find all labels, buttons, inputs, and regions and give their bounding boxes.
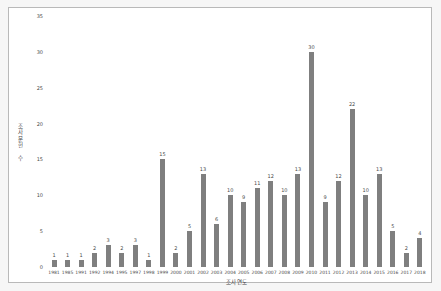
y-tick-label: 5 (29, 229, 43, 234)
bar-2015 (377, 174, 382, 267)
bar-1981 (52, 260, 57, 267)
bar-value-label: 4 (418, 231, 421, 236)
bar-value-label: 13 (200, 167, 206, 172)
bar-1992 (92, 253, 97, 267)
bar-2011 (323, 202, 328, 267)
bar-chart-plot-area: 조사문헌 수 조사연도 0510152025303511981119851199… (9, 8, 431, 282)
y-tick-label: 10 (29, 193, 43, 198)
bar-2007 (268, 181, 273, 267)
bar-1999 (160, 159, 165, 267)
y-tick-label: 20 (29, 121, 43, 126)
bar-2008 (282, 195, 287, 267)
bar-value-label: 10 (362, 188, 368, 193)
bar-2014 (363, 195, 368, 267)
bar-1995 (119, 253, 124, 267)
bar-value-label: 10 (227, 188, 233, 193)
bar-value-label: 9 (242, 195, 245, 200)
bar-2009 (295, 174, 300, 267)
bar-1994 (106, 245, 111, 267)
bar-1997 (133, 245, 138, 267)
bar-value-label: 5 (391, 224, 394, 229)
bar-value-label: 3 (107, 238, 110, 243)
bar-value-label: 2 (174, 246, 177, 251)
bar-2004 (228, 195, 233, 267)
chart-figure: 조사문헌 수 조사연도 0510152025303511981119851199… (8, 7, 432, 283)
bar-value-label: 22 (349, 102, 355, 107)
bar-2010 (309, 52, 314, 267)
y-tick-label: 30 (29, 49, 43, 54)
bar-value-label: 3 (134, 238, 137, 243)
y-axis-title: 조사문헌 수 (17, 122, 25, 161)
bar-2000 (173, 253, 178, 267)
bar-value-label: 11 (254, 181, 260, 186)
bar-2003 (214, 224, 219, 267)
bar-value-label: 2 (120, 246, 123, 251)
bar-2017 (404, 253, 409, 267)
bar-2002 (201, 174, 206, 267)
bar-value-label: 9 (323, 195, 326, 200)
bar-1991 (79, 260, 84, 267)
y-tick-label: 25 (29, 85, 43, 90)
x-tick-label: 2018 (412, 270, 428, 275)
bar-value-label: 1 (147, 253, 150, 258)
bar-1985 (65, 260, 70, 267)
y-tick-label: 35 (29, 14, 43, 19)
bar-2013 (350, 109, 355, 267)
bar-value-label: 13 (295, 167, 301, 172)
bar-value-label: 2 (93, 246, 96, 251)
bar-value-label: 1 (66, 253, 69, 258)
bar-value-label: 13 (376, 167, 382, 172)
screenshot-root: { "figure": { "background": "#ffffff", "… (0, 0, 441, 291)
y-tick-label: 0 (29, 265, 43, 270)
bar-2006 (255, 188, 260, 267)
bar-value-label: 12 (268, 174, 274, 179)
bar-value-label: 30 (308, 45, 314, 50)
y-tick-label: 15 (29, 157, 43, 162)
bar-value-label: 6 (215, 217, 218, 222)
bar-value-label: 10 (281, 188, 287, 193)
bar-2018 (417, 238, 422, 267)
bar-value-label: 5 (188, 224, 191, 229)
bar-value-label: 1 (52, 253, 55, 258)
bar-1998 (146, 260, 151, 267)
bar-2001 (187, 231, 192, 267)
bar-2016 (390, 231, 395, 267)
bar-value-label: 1 (80, 253, 83, 258)
x-axis-title: 조사연도 (226, 278, 248, 286)
bar-value-label: 2 (405, 246, 408, 251)
bar-2005 (241, 202, 246, 267)
bar-value-label: 15 (159, 152, 165, 157)
bar-value-label: 12 (335, 174, 341, 179)
bar-2012 (336, 181, 341, 267)
